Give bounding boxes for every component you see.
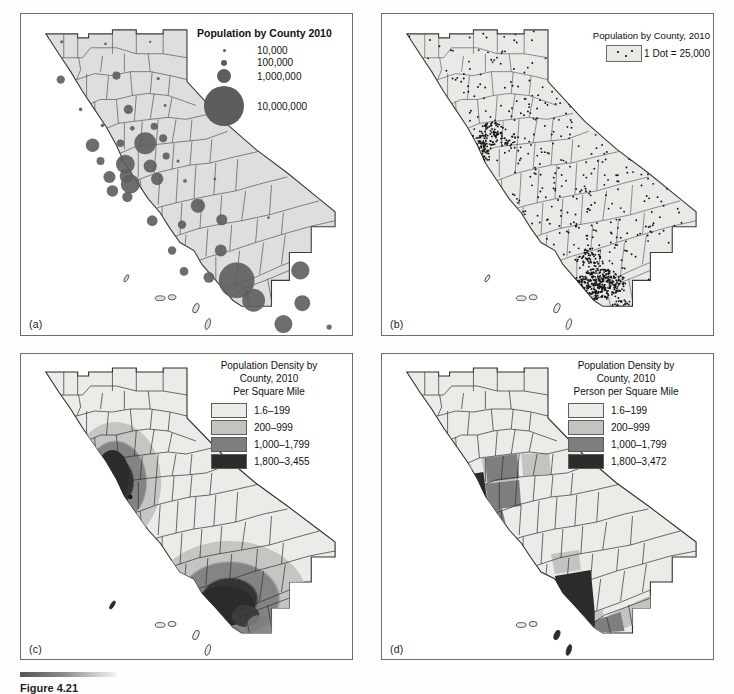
legend-a-item: 100,000 (197, 57, 349, 68)
legend-a-symbol-cell (197, 86, 251, 126)
panel-c-smoothed-density-map: Population Density by County, 2010 Per S… (20, 353, 353, 660)
legend-a-value: 10,000,000 (251, 101, 307, 112)
legend-d-class: 1,000–1,799 (568, 437, 710, 452)
channel-islands (484, 274, 573, 330)
class-swatch-3 (211, 437, 247, 452)
class-swatch-1 (568, 403, 604, 418)
channel-islands (123, 274, 212, 330)
legend-panel-d: Population Density by County, 2010 Perso… (542, 359, 710, 471)
california-outline (407, 30, 696, 306)
legend-b-title: Population by County, 2010 (542, 30, 710, 41)
legend-a-item: 10,000,000 (197, 86, 349, 126)
bubble-symbol-icon (217, 69, 231, 83)
panel-b-label: (b) (390, 318, 403, 330)
legend-panel-a: Population by County 2010 10,000 100,000… (197, 27, 349, 127)
class-range-3: 1,000–1,799 (604, 439, 667, 450)
dot-sample-swatch (606, 45, 642, 62)
legend-c-class: 1,000–1,799 (211, 437, 349, 452)
bubble-symbol-icon (223, 49, 226, 52)
class-swatch-2 (211, 420, 247, 435)
class-range-2: 200–999 (604, 422, 650, 433)
channel-islands (109, 600, 212, 656)
caption-rule (20, 672, 116, 677)
panel-a-label: (a) (29, 318, 42, 330)
legend-c-title: Population Density by County, 2010 Per S… (189, 359, 349, 398)
bay-water-inlet (452, 466, 464, 497)
legend-a-title: Population by County 2010 (197, 27, 349, 39)
legend-panel-b: Population by County, 2010 1 Dot = 25,00… (542, 30, 710, 62)
legend-d-title: Population Density by County, 2010 Perso… (542, 359, 710, 398)
legend-c-classes: 1.6–199 200–999 1,000–1,799 1,800–3,455 (189, 403, 349, 469)
legend-c-title-line1: Population Density by (189, 359, 349, 372)
class-range-2: 200–999 (247, 422, 293, 433)
legend-panel-c: Population Density by County, 2010 Per S… (189, 359, 349, 471)
legend-b-dot-value: 1 Dot = 25,000 (644, 48, 710, 59)
figure-caption: Figure 4.21 (20, 672, 520, 694)
panel-b-dot-density-map: Population by County, 2010 1 Dot = 25,00… (381, 13, 714, 336)
legend-c-title-line3: Per Square Mile (189, 385, 349, 398)
class-swatch-4 (211, 454, 247, 469)
legend-c-class: 1,800–3,455 (211, 454, 349, 469)
class-range-3: 1,000–1,799 (247, 439, 310, 450)
panel-d-label: (d) (390, 643, 403, 655)
legend-c-title-line2: County, 2010 (189, 372, 349, 385)
legend-a-symbol-cell (197, 49, 251, 52)
bubble-symbol-icon (221, 60, 227, 66)
legend-d-title-line3: Person per Square Mile (542, 385, 710, 398)
class-swatch-2 (568, 420, 604, 435)
legend-d-class: 1,800–3,472 (568, 454, 710, 469)
class-range-4: 1,800–3,472 (604, 456, 667, 467)
panel-c-label: (c) (29, 643, 42, 655)
panel-b-map (382, 14, 713, 335)
caption-label: Figure 4.21 (20, 682, 520, 694)
bubble-symbol-icon (204, 86, 244, 126)
legend-d-title-line2: County, 2010 (542, 372, 710, 385)
class-swatch-3 (568, 437, 604, 452)
legend-a-item: 1,000,000 (197, 69, 349, 83)
point-marker (128, 495, 132, 499)
class-range-1: 1.6–199 (247, 405, 290, 416)
class-range-4: 1,800–3,455 (247, 456, 310, 467)
legend-a-value: 1,000,000 (251, 71, 302, 82)
legend-d-classes: 1.6–199 200–999 1,000–1,799 1,800–3,472 (542, 403, 710, 469)
legend-d-class: 1.6–199 (568, 403, 710, 418)
legend-d-title-line1: Population Density by (542, 359, 710, 372)
california-dot-map-svg (382, 14, 713, 335)
legend-a-value: 100,000 (251, 57, 293, 68)
bay-water-inlet (89, 464, 101, 496)
class-range-1: 1.6–199 (604, 405, 647, 416)
legend-a-value: 10,000 (251, 45, 288, 56)
legend-a-symbol-cell (197, 69, 251, 83)
panel-d-choropleth-map: Population Density by County, 2010 Perso… (381, 353, 714, 660)
legend-b-item: 1 Dot = 25,000 (542, 45, 710, 62)
legend-c-class: 1.6–199 (211, 403, 349, 418)
panel-a-proportional-symbol-map: Population by County 2010 10,000 100,000… (20, 13, 353, 336)
legend-d-class: 200–999 (568, 420, 710, 435)
channel-islands (516, 621, 573, 656)
legend-c-class: 200–999 (211, 420, 349, 435)
class-swatch-1 (211, 403, 247, 418)
class-swatch-4 (568, 454, 604, 469)
legend-a-item: 10,000 (197, 45, 349, 56)
legend-a-symbol-cell (197, 60, 251, 66)
